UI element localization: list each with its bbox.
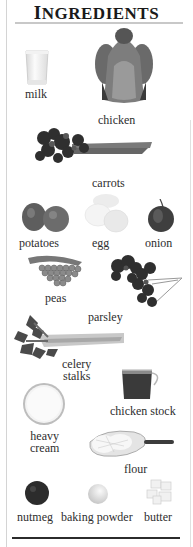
title-divider xyxy=(15,22,183,24)
celery-label-line2: stalks xyxy=(63,369,90,383)
chicken-item xyxy=(92,26,156,108)
right-border xyxy=(190,120,191,547)
peas-icon xyxy=(22,254,88,288)
baking-powder-icon xyxy=(87,483,109,505)
peas-label: peas xyxy=(45,292,66,304)
eggs-icon xyxy=(84,193,130,233)
onion-icon xyxy=(146,199,176,233)
baking-powder-label: baking powder xyxy=(61,511,133,523)
chicken-stock-label: chicken stock xyxy=(110,405,176,417)
butter-item xyxy=(143,478,177,510)
page-title: INGREDIENTS xyxy=(0,2,193,24)
potatoes-icon xyxy=(20,203,72,233)
flour-label: flour xyxy=(124,463,147,475)
celery-label: celerystalks xyxy=(62,358,91,382)
heavy-cream-item xyxy=(22,382,66,430)
flour-scoop-icon xyxy=(84,428,178,460)
nutmeg-icon xyxy=(24,480,50,506)
nutmeg-item xyxy=(24,480,50,510)
baking-powder-item xyxy=(87,483,109,509)
chicken-label: chicken xyxy=(98,114,135,126)
nutmeg-label: nutmeg xyxy=(17,511,53,523)
carrots-label: carrots xyxy=(92,177,125,189)
butter-label: butter xyxy=(144,511,172,523)
butter-cubes-icon xyxy=(143,478,177,506)
egg-item xyxy=(84,193,130,237)
whole-chicken-icon xyxy=(92,26,156,104)
chicken-stock-cup-icon xyxy=(120,367,164,401)
egg-label: egg xyxy=(92,237,109,249)
left-border xyxy=(6,0,7,547)
carrots-item xyxy=(32,126,156,170)
bottom-divider xyxy=(12,537,180,539)
heavy-cream-label-line2: cream xyxy=(30,441,59,455)
onion-label: onion xyxy=(145,237,172,249)
milk-glass-icon xyxy=(24,50,50,86)
parsley-icon xyxy=(108,254,184,310)
chicken-stock-item xyxy=(120,367,164,405)
peas-item xyxy=(22,254,88,292)
potatoes-item xyxy=(20,203,72,237)
carrots-bunch-icon xyxy=(32,126,156,166)
celery-icon xyxy=(8,313,126,363)
onion-item xyxy=(146,199,176,237)
heavy-cream-label: heavycream xyxy=(30,430,59,454)
potatoes-label: potatoes xyxy=(19,237,59,249)
parsley-item xyxy=(108,254,184,314)
milk-label: milk xyxy=(25,88,47,100)
milk-item xyxy=(24,50,50,90)
heavy-cream-dish-icon xyxy=(22,382,66,426)
flour-item xyxy=(84,428,178,464)
